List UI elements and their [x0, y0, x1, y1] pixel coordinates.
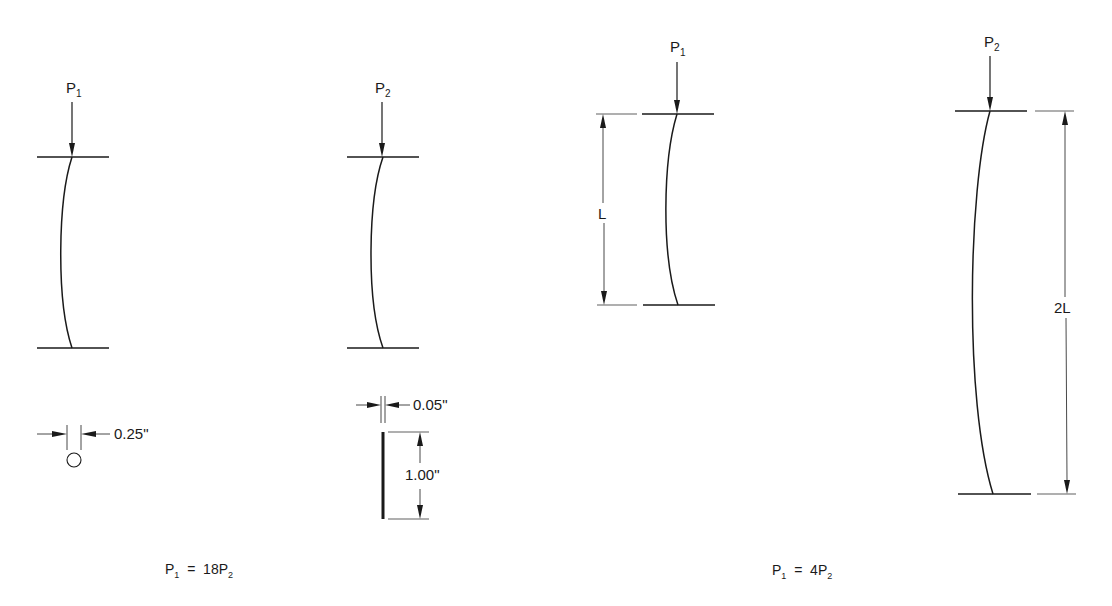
arrowhead-icon [1064, 480, 1070, 494]
buckled-column [61, 157, 72, 348]
arrowhead-icon [417, 432, 423, 446]
buckled-column [972, 111, 993, 494]
load-label-p1-left: P1 [66, 80, 82, 99]
arrowhead-icon [81, 431, 96, 437]
circle-section-shape [67, 453, 81, 467]
arrowhead-icon [385, 402, 399, 408]
dimension-circle-diameter: 0.25" [114, 426, 149, 441]
arrowhead-icon [601, 291, 607, 305]
arrowhead-icon [674, 100, 680, 114]
dimension-length-l: L [598, 206, 606, 221]
dimension-rect-thickness: 0.05" [413, 397, 448, 412]
load-label-p2-right: P2 [984, 34, 1000, 53]
arrowhead-icon [379, 143, 385, 157]
arrowhead-icon [987, 97, 993, 111]
rect-section-shape [382, 432, 385, 519]
column-2 [347, 102, 419, 348]
load-label-p1-right: P1 [670, 39, 686, 58]
load-label-p2-left: P2 [375, 80, 391, 99]
relation-left: P1 = 18P2 [165, 562, 233, 580]
arrowhead-icon [69, 143, 75, 157]
arrowhead-icon [367, 402, 381, 408]
relation-right: P1 = 4P2 [772, 563, 832, 581]
buckled-column [371, 157, 383, 348]
arrowhead-icon [417, 505, 423, 519]
diagram-canvas [0, 0, 1112, 606]
column-4 [955, 56, 1076, 494]
column-1 [37, 102, 109, 348]
buckled-column [666, 114, 678, 305]
dimension-length-2l: 2L [1054, 300, 1071, 315]
column-3 [596, 62, 715, 305]
arrowhead-icon [600, 114, 606, 128]
arrowhead-icon [52, 431, 67, 437]
arrowhead-icon [1062, 111, 1068, 125]
section-rectangle [356, 396, 429, 519]
dimension-rect-depth: 1.00" [405, 467, 440, 482]
section-circle [37, 425, 110, 467]
